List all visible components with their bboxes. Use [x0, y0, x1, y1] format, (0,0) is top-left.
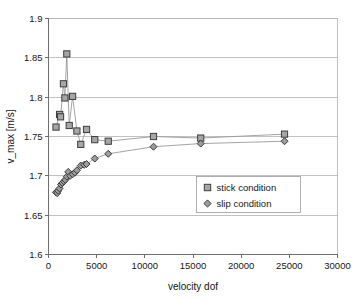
data-point-marker [105, 138, 111, 144]
data-point-marker [83, 126, 89, 132]
data-point-marker [53, 124, 59, 130]
y-tick-label-4: 1.8 [29, 92, 42, 103]
legend-label: slip condition [217, 198, 272, 209]
chart-legend: stick conditionslip condition [197, 177, 301, 213]
data-point-marker [62, 95, 68, 101]
y-tick-label-5: 1.85 [24, 52, 43, 63]
y-tick-label-6: 1.9 [29, 13, 42, 24]
x-tick-label-5: 25000 [276, 260, 302, 271]
data-point-marker [281, 131, 287, 137]
data-point-marker [150, 133, 156, 139]
x-tick-label-2: 10000 [132, 260, 158, 271]
data-point-marker [57, 114, 63, 120]
x-tick-label-6: 30000 [324, 260, 350, 271]
y-axis-title: v_max [m/s] [5, 109, 16, 163]
y-tick-label-1: 1.65 [24, 210, 43, 221]
legend-label: stick condition [217, 182, 277, 193]
x-tick-label-0: 0 [46, 260, 51, 271]
chart-container: 1.61.651.71.751.81.851.90500010000150002… [0, 0, 359, 302]
data-point-marker [74, 128, 80, 134]
x-axis-title: velocity dof [168, 281, 218, 292]
data-point-marker [69, 93, 75, 99]
chart-svg: 1.61.651.71.751.81.851.90500010000150002… [0, 0, 359, 302]
data-point-marker [66, 122, 72, 128]
y-tick-label-0: 1.6 [29, 249, 42, 260]
y-tick-label-3: 1.75 [24, 131, 43, 142]
data-point-marker [64, 51, 70, 57]
data-point-marker [60, 81, 66, 87]
y-tick-label-2: 1.7 [29, 170, 42, 181]
x-tick-label-1: 5000 [86, 260, 107, 271]
x-tick-label-4: 20000 [228, 260, 254, 271]
plot-background [0, 0, 359, 302]
x-tick-label-3: 15000 [180, 260, 206, 271]
data-point-marker [78, 141, 84, 147]
square-marker-icon [204, 184, 210, 190]
data-point-marker [92, 137, 98, 143]
